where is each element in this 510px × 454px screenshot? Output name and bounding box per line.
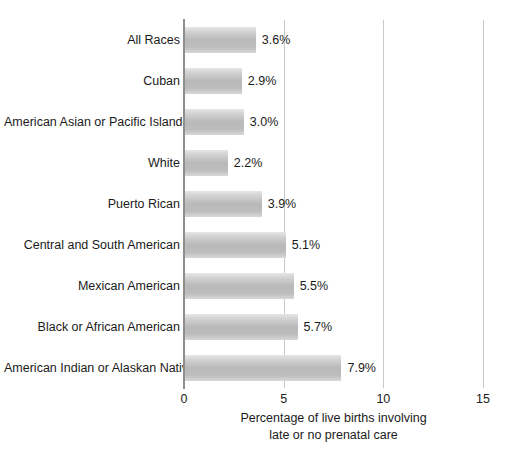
bar-value-label: 5.7% [298, 314, 333, 340]
bar[interactable] [184, 273, 294, 299]
value-axis-line [183, 19, 185, 389]
bar-value-label: 2.2% [228, 150, 263, 176]
bar[interactable] [184, 314, 298, 340]
tick-label-5: 5 [280, 392, 287, 406]
bar-row: 3.0% [184, 109, 483, 135]
bar-chart: All RacesCubanAmerican Asian or Pacific … [0, 0, 510, 454]
bar-row: 3.9% [184, 191, 483, 217]
category-axis-labels: All RacesCubanAmerican Asian or Pacific … [0, 20, 180, 388]
bar-value-label: 5.1% [286, 232, 321, 258]
bar[interactable] [184, 109, 244, 135]
axis-title-line-1: Percentage of live births involving [184, 410, 483, 427]
tick-label-10: 10 [376, 392, 390, 406]
bar-value-label: 7.9% [341, 355, 376, 381]
bar-row: 7.9% [184, 355, 483, 381]
bars-layer: 3.6%2.9%3.0%2.2%3.9%5.1%5.5%5.7%7.9% [184, 20, 483, 388]
bar[interactable] [184, 27, 256, 53]
category-label: American Asian or Pacific Islander [4, 109, 180, 135]
bar-row: 2.9% [184, 68, 483, 94]
bar-value-label: 3.6% [256, 27, 291, 53]
value-axis-title: Percentage of live births involving late… [184, 410, 483, 444]
category-label: Black or African American [4, 314, 180, 340]
bar-row: 3.6% [184, 27, 483, 53]
bar[interactable] [184, 355, 341, 381]
bar-row: 5.5% [184, 273, 483, 299]
category-label: All Races [4, 27, 180, 53]
category-label: Central and South American [4, 232, 180, 258]
category-label: White [4, 150, 180, 176]
bar-row: 2.2% [184, 150, 483, 176]
tick-label-15: 15 [476, 392, 490, 406]
category-label: American Indian or Alaskan Native [4, 355, 180, 381]
bar-value-label: 3.9% [262, 191, 297, 217]
bar-row: 5.1% [184, 232, 483, 258]
bar[interactable] [184, 232, 286, 258]
bar[interactable] [184, 150, 228, 176]
bar[interactable] [184, 191, 262, 217]
bar-value-label: 5.5% [294, 273, 329, 299]
bar-value-label: 3.0% [244, 109, 279, 135]
axis-title-line-2: late or no prenatal care [184, 427, 483, 444]
category-label: Puerto Rican [4, 191, 180, 217]
category-label: Mexican American [4, 273, 180, 299]
tick-label-0: 0 [181, 392, 188, 406]
bar-row: 5.7% [184, 314, 483, 340]
gridline-15 [483, 20, 484, 388]
bar-value-label: 2.9% [242, 68, 277, 94]
bar[interactable] [184, 68, 242, 94]
category-label: Cuban [4, 68, 180, 94]
